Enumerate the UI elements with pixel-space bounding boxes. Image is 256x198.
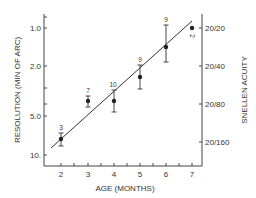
n-label-age-3: 7 [86,87,90,94]
n-label-age-4: 10 [109,81,117,88]
y-tick-2: 2.0 [30,62,42,71]
x-tick-4: 4 [112,170,117,179]
y-axis-title: RESOLUTION (MIN OF ARC) [13,37,22,144]
snellen-20-20: 20/20 [205,24,226,33]
point-age-3 [86,99,90,103]
axes [44,14,202,166]
n-label-age-5: 9 [138,56,142,63]
y-tick-5: 5.0 [30,112,42,121]
x-tick-5: 5 [138,170,143,179]
fit-line [51,21,192,148]
point-age-2 [59,137,63,141]
point-age-4 [112,99,116,103]
snellen-20-80: 20/80 [205,100,226,109]
y-left-tick-labels: 1.0 2.0 5.0 10. [30,24,42,160]
y-tick-10: 10. [30,151,41,160]
point-age-7 [190,26,194,30]
x-tick-3: 3 [86,170,91,179]
x-tick-labels: 2 3 4 5 6 7 [59,170,195,179]
n-label-age-2: 3 [59,124,63,131]
y-tick-1: 1.0 [30,24,42,33]
n-label-age-6: 9 [164,16,168,23]
point-age-5 [138,75,142,79]
y-axis-right-title: SNELLEN ACUITY [240,56,249,124]
y-right-tick-labels: 20/20 20/40 20/80 20/160 [205,24,230,147]
n-labels: 3 7 10 9 9 2 [59,16,196,131]
x-tick-6: 6 [164,170,169,179]
data-points [59,26,194,141]
x-tick-2: 2 [59,170,64,179]
n-label-age-7: 2 [189,34,196,38]
point-age-6 [164,45,168,49]
x-axis-title: AGE (MONTHS) [95,184,154,193]
chart: 1.0 2.0 5.0 10. 20/20 20/40 20/80 20/160… [0,0,256,198]
x-tick-7: 7 [190,170,195,179]
snellen-20-160: 20/160 [205,138,230,147]
snellen-20-40: 20/40 [205,62,226,71]
